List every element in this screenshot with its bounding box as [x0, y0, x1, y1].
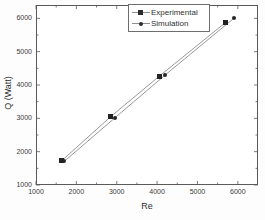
- legend-marker-circle-icon: [131, 18, 151, 29]
- legend-label-experimental: Experimental: [151, 8, 198, 18]
- data-point-experimental: [157, 74, 162, 79]
- y-tick-label: 6000: [6, 14, 32, 22]
- x-tick-label: 4000: [142, 188, 172, 196]
- legend-entry-simulation: Simulation: [131, 18, 206, 29]
- x-axis-title: Re: [36, 201, 258, 211]
- data-point-simulation: [113, 116, 117, 120]
- legend-label-simulation: Simulation: [151, 19, 188, 29]
- chart-legend: Experimental Simulation: [128, 4, 210, 32]
- x-tick-label: 5000: [182, 188, 212, 196]
- x-tick-label: 6000: [223, 188, 253, 196]
- x-tick-label: 3000: [102, 188, 132, 196]
- legend-entry-experimental: Experimental: [131, 7, 206, 18]
- legend-marker-square-icon: [131, 7, 151, 18]
- y-tick-label: 2000: [6, 148, 32, 156]
- data-point-experimental: [223, 20, 228, 25]
- x-tick-label: 1000: [21, 188, 51, 196]
- y-tick-label: 5000: [6, 48, 32, 56]
- y-axis-title: Q (Watt): [3, 63, 13, 123]
- x-tick-label: 2000: [61, 188, 91, 196]
- chart-figure: 100020003000400050006000 100020003000400…: [0, 0, 265, 220]
- plot-area: [36, 5, 258, 185]
